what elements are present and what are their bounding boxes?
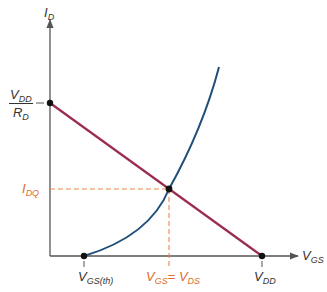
vdd-label: VDD — [254, 270, 276, 283]
idq-label: IDQ — [22, 182, 39, 195]
threshold-point — [81, 253, 87, 259]
q-voltage-label: VGS= VDS — [146, 270, 200, 283]
y-axis-label: ID — [44, 6, 54, 19]
y-axis-subscript: D — [48, 12, 55, 22]
y-intercept-point — [47, 100, 53, 106]
x-axis-symbol: V — [302, 248, 311, 263]
q-point — [166, 186, 173, 193]
y-intercept-label: VDD RD — [9, 88, 33, 119]
fraction-denominator: RD — [9, 104, 33, 119]
diagram-canvas — [0, 0, 327, 292]
transfer-curve — [84, 67, 219, 256]
load-line — [50, 103, 262, 256]
threshold-label: VGS(th) — [78, 270, 113, 283]
vdd-point — [259, 253, 265, 259]
x-axis-subscript: GS — [311, 255, 324, 265]
fraction-numerator: VDD — [9, 88, 33, 104]
x-axis-label: VGS — [302, 249, 324, 262]
